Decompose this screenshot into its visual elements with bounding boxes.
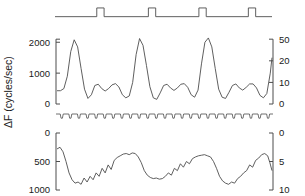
tick-label: 0	[45, 127, 50, 138]
tick-label: 2000	[29, 37, 50, 48]
tick-label: 0	[279, 127, 284, 138]
tick-label: 0	[45, 98, 50, 109]
tick-label: 10	[279, 184, 290, 195]
tick-label: 500	[34, 156, 50, 167]
tick-label: 1000	[29, 184, 50, 195]
tick-label: 50	[279, 34, 290, 45]
tick-label: 10	[279, 77, 290, 88]
shared-y-axis-label-text: ΔF (cycles/sec)	[2, 56, 14, 128]
tick-label: 20	[279, 55, 290, 66]
figure-container: ΔF (cycles/sec) 200010000 5020100 050010…	[0, 0, 305, 196]
multi-panel-line-chart: ΔF (cycles/sec) 200010000 5020100 050010…	[0, 0, 305, 196]
tick-label: 1000	[29, 68, 50, 79]
tick-label: 5	[279, 156, 284, 167]
tick-label: 0	[279, 98, 284, 109]
shared-y-axis-label: ΔF (cycles/sec)	[2, 56, 14, 128]
